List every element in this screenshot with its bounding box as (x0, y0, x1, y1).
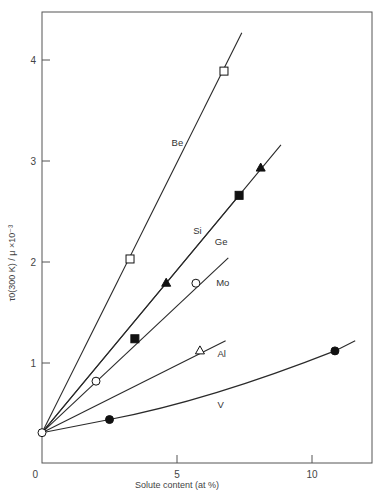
marker-si (256, 163, 265, 171)
series-label-mo: Mo (216, 277, 229, 288)
series-label-al: Al (218, 348, 226, 359)
y-tick-label: 0 (32, 469, 38, 480)
series-label-be: Be (172, 137, 184, 148)
series-line-be (42, 33, 242, 433)
marker-ge (235, 191, 243, 199)
marker-v (331, 347, 339, 355)
y-tick-label: 3 (30, 156, 36, 167)
series-label-v: V (218, 399, 225, 410)
marker-al (195, 346, 204, 354)
x-axis-title: Solute content (at %) (135, 480, 219, 490)
x-tick-label: 5 (174, 469, 180, 480)
y-axis-title: τ0(300 K) / μ ×10⁻³ (7, 225, 17, 302)
y-tick-label: 1 (30, 358, 36, 369)
marker-mo (92, 377, 100, 385)
marker-ge (131, 335, 139, 343)
series-line-mo (42, 258, 228, 433)
chart: 01234510 BeSiGeMoAlV Solute content (at … (0, 0, 383, 499)
axis-ticks: 01234510 (30, 55, 318, 480)
marker-origin (38, 429, 46, 437)
series-label-ge: Ge (215, 236, 228, 247)
y-tick-label: 4 (30, 55, 36, 66)
series-label-si: Si (193, 225, 201, 236)
y-tick-label: 2 (30, 257, 36, 268)
x-tick-label: 10 (306, 469, 318, 480)
marker-be (220, 67, 228, 75)
marker-mo (192, 279, 200, 287)
series-labels: BeSiGeMoAlV (172, 137, 230, 411)
series-line-al (42, 341, 226, 433)
marker-v (106, 416, 114, 424)
data-markers (38, 67, 339, 437)
series-line-ge (42, 195, 239, 432)
marker-be (126, 255, 134, 263)
